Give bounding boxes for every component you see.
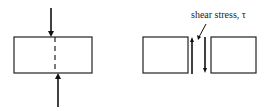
down-force-arrow-icon <box>48 8 54 37</box>
left-block <box>14 37 92 73</box>
right-block-left <box>143 37 188 73</box>
up-force-arrow-icon <box>55 73 61 107</box>
right-blocks-group: shear stress, τ <box>143 9 256 74</box>
left-block-group <box>14 8 92 107</box>
right-block-right <box>211 37 256 73</box>
shear-up-arrow-icon <box>190 37 194 74</box>
shear-stress-label: shear stress, τ <box>191 9 246 20</box>
shear-diagram: shear stress, τ <box>0 0 269 111</box>
shear-down-arrow-icon <box>203 37 207 73</box>
